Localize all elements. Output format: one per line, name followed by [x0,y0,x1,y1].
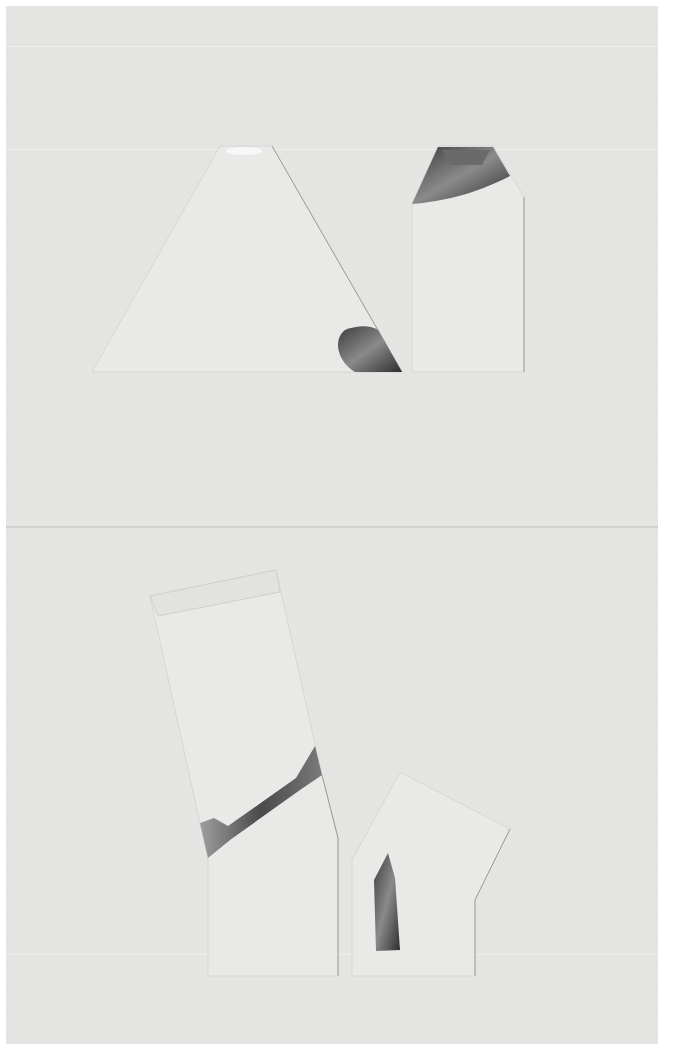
trapezoid-shape [92,146,402,372]
pentagon-shape [412,146,524,372]
tilted-column-shape [150,570,338,976]
collage-artwork [0,0,684,1057]
house-shape [352,772,510,976]
